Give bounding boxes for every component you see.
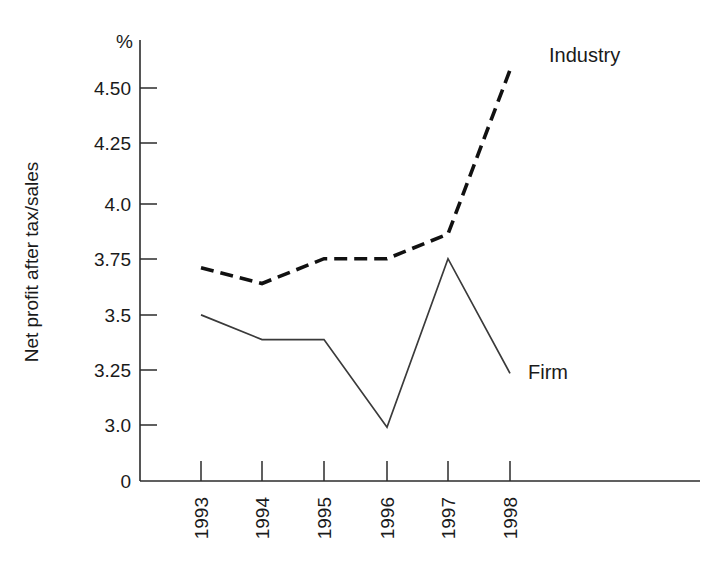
y-tick-label: 4.50 (94, 78, 131, 99)
y-axis-unit-label: % (116, 31, 133, 52)
y-axis-title: Net profit after tax/sales (21, 162, 42, 363)
line-chart: 03.03.253.53.754.04.254.50 % Net profit … (0, 0, 723, 574)
series-label-firm: Firm (528, 361, 568, 383)
x-axis-ticks (201, 461, 510, 481)
y-tick-label: 3.0 (105, 415, 131, 436)
x-tick-label: 1997 (438, 497, 459, 539)
x-tick-label: 1993 (191, 497, 212, 539)
y-axis-tick-labels: 03.03.253.53.754.04.254.50 (94, 78, 131, 492)
y-tick-label: 4.25 (94, 133, 131, 154)
x-tick-label: 1994 (252, 497, 273, 540)
x-axis-tick-labels: 199319941995199619971998 (191, 497, 521, 540)
x-tick-label: 1995 (314, 497, 335, 539)
x-tick-label: 1996 (377, 497, 398, 539)
y-tick-label: 3.75 (94, 249, 131, 270)
x-tick-label: 1998 (500, 497, 521, 539)
y-tick-label: 3.5 (105, 305, 131, 326)
y-tick-label: 4.0 (105, 194, 131, 215)
series-line-industry (201, 70, 510, 284)
series-label-industry: Industry (549, 44, 620, 66)
y-axis-ticks (140, 88, 157, 425)
y-tick-label: 3.25 (94, 360, 131, 381)
y-tick-label: 0 (120, 471, 131, 492)
series-line-firm (201, 259, 510, 428)
chart-container: 03.03.253.53.754.04.254.50 % Net profit … (0, 0, 723, 574)
